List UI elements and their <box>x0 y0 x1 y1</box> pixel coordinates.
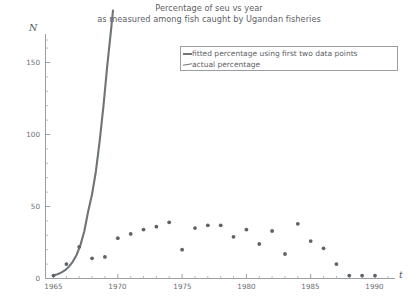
y-tick-label-100: 100 <box>18 130 40 139</box>
data-point <box>219 223 223 227</box>
legend-entry-fitted: fitted percentage using first two data p… <box>183 48 397 59</box>
legend-line-marker-icon <box>183 49 192 58</box>
x-tick-label-1965: 1965 <box>36 282 71 291</box>
data-point <box>296 222 300 226</box>
data-point <box>155 225 159 229</box>
chart-legend: fitted percentage using first two data p… <box>180 46 398 71</box>
data-point <box>167 220 171 224</box>
y-axis-label: N <box>29 22 37 33</box>
data-point <box>283 252 287 256</box>
x-axis-label: t <box>399 269 403 280</box>
y-tick-label-150: 150 <box>18 58 40 67</box>
data-point <box>193 226 197 230</box>
y-tick-label-50: 50 <box>18 202 40 211</box>
data-point <box>77 245 81 249</box>
x-major-ticks <box>54 274 376 279</box>
data-point <box>142 228 146 232</box>
data-point <box>206 223 210 227</box>
legend-label-fitted: fitted percentage using first two data p… <box>192 49 358 58</box>
data-point <box>180 248 184 252</box>
chart-figure: Percentage of seu vs year as measured am… <box>0 0 418 308</box>
x-tick-label-1980: 1980 <box>229 282 264 291</box>
x-tick-label-1975: 1975 <box>165 282 200 291</box>
data-point <box>103 255 107 259</box>
legend-wiggle-marker-icon <box>183 60 192 69</box>
data-point <box>245 228 249 232</box>
data-point <box>373 274 377 278</box>
data-point <box>270 229 274 233</box>
fitted-curve <box>54 11 114 276</box>
x-tick-label-1970: 1970 <box>100 282 135 291</box>
data-point <box>257 242 261 246</box>
data-point <box>129 232 133 236</box>
scatter-points <box>52 220 377 277</box>
data-point <box>309 239 313 243</box>
y-major-ticks <box>46 63 51 279</box>
x-tick-label-1985: 1985 <box>293 282 328 291</box>
data-point <box>360 274 364 278</box>
data-point <box>90 256 94 260</box>
data-point <box>52 274 56 278</box>
legend-label-actual: actual percentage <box>192 60 260 69</box>
x-tick-label-1990: 1990 <box>357 282 392 291</box>
data-point <box>65 262 69 266</box>
data-point <box>347 274 351 278</box>
legend-entry-actual: actual percentage <box>183 59 397 70</box>
data-point <box>232 235 236 239</box>
data-point <box>335 262 339 266</box>
data-point <box>116 236 120 240</box>
data-point <box>322 246 326 250</box>
